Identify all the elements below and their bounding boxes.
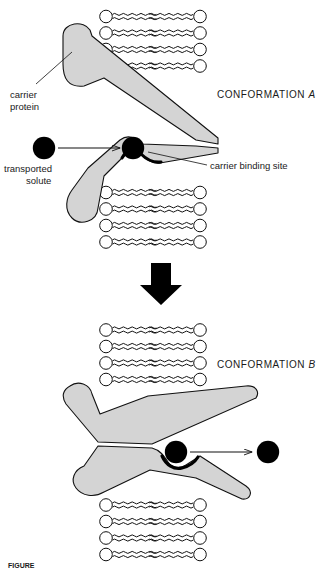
carrier-protein-transport-figure: carrier protein transported solute carri… — [0, 0, 328, 570]
solute-bound-b — [165, 441, 187, 463]
label-conformation-b: CONFORMATION B — [217, 359, 316, 370]
label-carrier-protein-line1: carrier — [10, 89, 37, 100]
label-transported-solute-line1: transported — [4, 163, 52, 174]
label-conformation-a: CONFORMATION A — [217, 89, 316, 100]
conformation-a-letter: A — [307, 89, 315, 100]
label-carrier-binding-site: carrier binding site — [210, 160, 288, 171]
solute-released-b — [257, 441, 279, 463]
conformation-a-prefix: CONFORMATION — [217, 89, 308, 100]
conformation-b-letter: B — [308, 359, 315, 370]
figure-caption-number: FIGURE — [8, 562, 35, 569]
figure-svg: carrier protein transported solute carri… — [0, 0, 328, 570]
label-carrier-protein-line2: protein — [10, 101, 39, 112]
conformation-b-prefix: CONFORMATION — [217, 359, 308, 370]
solute-free-a — [33, 137, 55, 159]
label-transported-solute-line2: solute — [26, 175, 51, 186]
figure-caption: FIGURE — [8, 562, 35, 569]
solute-bound-a — [122, 137, 144, 159]
